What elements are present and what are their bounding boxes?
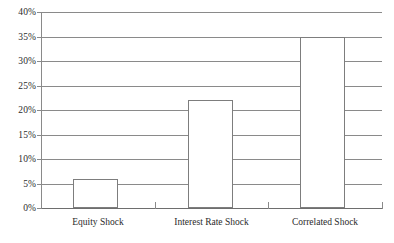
y-axis-label-10: 10%	[2, 154, 36, 164]
x-axis-label-interest-rate-shock: Interest Rate Shock	[155, 216, 268, 228]
y-axis-label-5: 5%	[2, 179, 36, 189]
bar-interest-rate-shock	[188, 100, 233, 208]
bar-chart: 40% 35% 30% 25% 20% 15% 10% 5% 0%	[0, 0, 394, 243]
bar-correlated-shock	[300, 37, 345, 209]
y-axis-label-40: 40%	[2, 7, 36, 17]
y-axis-label-0: 0%	[2, 203, 36, 213]
x-separator-1	[155, 202, 156, 209]
x-separator-end	[382, 202, 383, 209]
y-axis-label-20: 20%	[2, 105, 36, 115]
plot-area	[41, 12, 382, 208]
x-axis-label-equity-shock: Equity Shock	[41, 216, 155, 228]
y-axis-label-30: 30%	[2, 56, 36, 66]
bar-equity-shock	[73, 179, 118, 208]
x-separator-start	[41, 202, 42, 209]
x-separator-2	[268, 202, 269, 209]
y-axis-labels: 40% 35% 30% 25% 20% 15% 10% 5% 0%	[0, 0, 36, 243]
y-axis-label-15: 15%	[2, 130, 36, 140]
gridline-40	[41, 12, 382, 13]
y-axis-label-35: 35%	[2, 32, 36, 42]
x-axis-line	[41, 208, 382, 209]
x-axis-label-correlated-shock: Correlated Shock	[268, 216, 382, 228]
y-axis-label-25: 25%	[2, 81, 36, 91]
